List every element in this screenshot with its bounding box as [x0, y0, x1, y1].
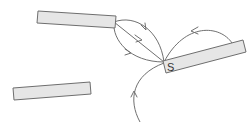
field-lines-between-magnets	[114, 20, 164, 62]
field-line-diagonal	[114, 22, 164, 62]
arrowhead-lower-arc	[125, 49, 131, 55]
bar-magnet-top-left	[37, 11, 116, 28]
field-lines-bottom	[131, 63, 164, 122]
arrowhead-diagonal	[135, 35, 142, 42]
field-line-from-bottom	[134, 63, 164, 122]
magnetic-field-diagram: S	[0, 0, 252, 128]
bar-magnet-bottom-left	[13, 82, 91, 100]
pole-label-south: S	[167, 61, 174, 73]
diagram-canvas: S	[0, 0, 252, 128]
